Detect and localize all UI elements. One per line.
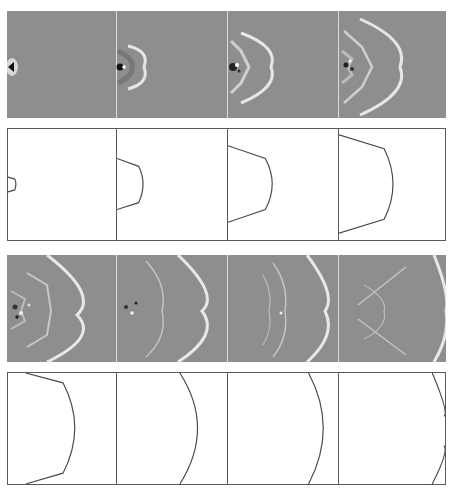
contour-plot-2 — [117, 129, 227, 240]
field-image-4 — [338, 11, 446, 118]
field-panel-6 — [116, 255, 227, 362]
field-panel-2 — [116, 11, 227, 118]
field-image-7 — [227, 255, 338, 362]
contour-plot-8 — [339, 373, 445, 484]
contour-panel-8 — [338, 372, 446, 485]
contour-panel-6 — [116, 372, 228, 485]
field-image-2 — [116, 11, 227, 118]
field-panel-3 — [227, 11, 338, 118]
field-panel-4 — [338, 11, 446, 118]
field-image-8 — [338, 255, 446, 362]
field-panel-5 — [7, 255, 116, 362]
field-image-6 — [116, 255, 227, 362]
contour-panel-3 — [227, 128, 339, 241]
field-panel-8 — [338, 255, 446, 362]
field-image-1 — [7, 11, 116, 118]
contour-plot-5 — [8, 373, 116, 484]
contour-panel-4 — [338, 128, 446, 241]
contour-panel-2 — [116, 128, 228, 241]
contour-plot-7 — [228, 373, 338, 484]
field-image-5 — [7, 255, 116, 362]
contour-plot-4 — [339, 129, 445, 240]
field-panel-7 — [227, 255, 338, 362]
figure-grid — [0, 0, 452, 492]
contour-panel-5 — [7, 372, 117, 485]
contour-panel-7 — [227, 372, 339, 485]
field-panel-1 — [7, 11, 116, 118]
contour-plot-3 — [228, 129, 338, 240]
contour-plot-6 — [117, 373, 227, 484]
field-image-3 — [227, 11, 338, 118]
contour-plot-1 — [8, 129, 116, 240]
contour-panel-1 — [7, 128, 117, 241]
